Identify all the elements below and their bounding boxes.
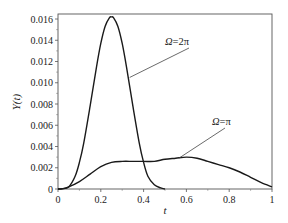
x-tick-label: 0.4 [137,194,150,205]
series-omega-2pi-line [58,17,165,189]
x-tick-label: 0 [56,194,61,205]
annotation-pi-value: =π [220,116,232,127]
x-tick-label: 0.2 [95,194,108,205]
annotation-leader-2pi [130,48,189,77]
series-omega-pi-line [58,157,272,189]
y-axis-label: Υ(t) [10,93,23,110]
x-axis-label: t [163,204,167,216]
y-tick-label: 0.014 [31,35,54,46]
y-tick-label: 0 [48,184,53,195]
y-tick-label: 0.010 [31,77,54,88]
x-tick-label: 0.6 [180,194,193,205]
annotation-omega-2pi: Ω=2π [165,36,190,47]
y-tick-label: 0.004 [31,141,54,152]
chart: 00.0020.0040.0060.0080.0100.0120.0140.01… [0,0,288,223]
y-tick-label: 0.016 [31,14,54,25]
y-tick-label: 0.012 [31,56,54,67]
x-axis-ticks: 00.20.40.60.81 [56,189,275,205]
annotation-omega-pi: Ω=π [212,116,232,127]
y-axis-ticks: 00.0020.0040.0060.0080.0100.0120.0140.01… [31,14,59,195]
y-tick-label: 0.006 [31,120,54,131]
y-tick-label: 0.002 [31,162,54,173]
x-tick-label: 0.8 [223,194,236,205]
annotation-2pi-value: =2π [173,36,190,47]
annotations [130,48,225,158]
annotation-leader-pi [179,128,225,158]
y-tick-label: 0.008 [31,99,54,110]
x-tick-label: 1 [270,194,275,205]
